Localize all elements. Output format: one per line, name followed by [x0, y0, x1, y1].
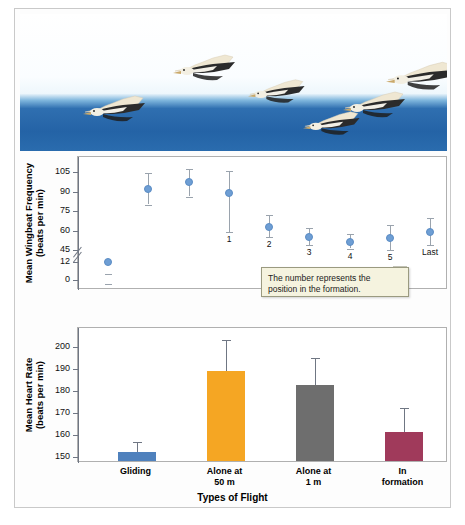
wingbeat-y-axis-title: Mean Wingbeat Frequency (beats per min): [22, 156, 44, 289]
wingbeat-error-cap: [306, 245, 313, 246]
wingbeat-error-cap: [145, 173, 152, 174]
wingbeat-y-axis-line: [78, 157, 79, 290]
heart-rate-category-label-line: formation: [358, 477, 448, 488]
wingbeat-data-point: [346, 238, 354, 246]
heart-rate-y-tick: [73, 457, 78, 458]
heart-rate-y-tick-label: 190: [44, 364, 70, 373]
heart-rate-y-tick-label: 180: [44, 386, 70, 395]
pelican-3: [248, 77, 312, 108]
heart-rate-error-bar: [137, 442, 138, 452]
heart-rate-error-bar: [315, 358, 316, 385]
heart-rate-category-label: Alone at50 m: [180, 466, 270, 487]
wingbeat-y-tick-label: 0: [44, 275, 70, 284]
wingbeat-error-cap: [387, 225, 394, 226]
heart-rate-error-cap: [133, 442, 142, 443]
wingbeat-error-cap: [266, 215, 273, 216]
wingbeat-error-cap: [186, 169, 193, 170]
wingbeat-y-tick-label: 105: [44, 167, 70, 176]
wingbeat-y-tick: [73, 231, 78, 232]
heart-rate-bar: [118, 452, 156, 461]
heart-rate-y-tick-label: 170: [44, 408, 70, 417]
heart-rate-category-label-line: 1 m: [269, 477, 359, 488]
wingbeat-error-cap: [427, 245, 434, 246]
wingbeat-position-label: 3: [294, 247, 324, 257]
heart-rate-bar: [296, 385, 334, 461]
wingbeat-y-tick-label: 60: [44, 226, 70, 235]
heart-rate-y-axis-title-line1: Mean Heart Rate: [22, 327, 33, 462]
wingbeat-data-point: [144, 185, 152, 193]
heart-rate-category-label: Alone at1 m: [269, 466, 359, 487]
heart-rate-bar: [385, 432, 423, 461]
heart-rate-y-tick: [73, 435, 78, 436]
wingbeat-error-cap: [105, 274, 112, 275]
heart-rate-y-tick: [73, 391, 78, 392]
wingbeat-error-bar: [229, 171, 230, 232]
heart-rate-error-cap: [311, 358, 320, 359]
figure-container: 0124560759010512345Last Mean Wingbeat Fr…: [14, 8, 451, 508]
heart-rate-bar: [207, 371, 245, 461]
heart-rate-y-axis-title-line2: (beats per min): [33, 327, 44, 462]
callout-text: The number represents the position in th…: [268, 273, 371, 294]
pelican-1: [83, 93, 153, 127]
heart-rate-chart: 150160170180190200: [77, 327, 447, 462]
heart-rate-y-tick: [73, 369, 78, 370]
wingbeat-y-axis-title-line2: (beats per min): [33, 156, 44, 289]
wingbeat-data-point: [225, 189, 233, 197]
heart-rate-y-tick-label: 160: [44, 430, 70, 439]
wingbeat-y-tick-label: 45: [44, 245, 70, 254]
heart-rate-y-axis-line: [78, 328, 79, 463]
wingbeat-data-point: [386, 234, 394, 242]
wingbeat-y-tick-label: 75: [44, 206, 70, 215]
heart-rate-category-label: Information: [358, 466, 448, 487]
wingbeat-error-cap: [266, 237, 273, 238]
wingbeat-data-point: [104, 258, 112, 266]
wingbeat-error-cap: [145, 205, 152, 206]
heart-rate-category-label-line: 50 m: [180, 477, 270, 488]
wingbeat-error-cap: [186, 197, 193, 198]
heart-rate-category-label-line: Alone at: [180, 466, 270, 477]
formation-position-callout: The number represents the position in th…: [261, 267, 409, 297]
pelican-6: [386, 59, 447, 96]
heart-rate-y-tick: [73, 413, 78, 414]
pelican-2: [173, 52, 243, 86]
wingbeat-error-cap: [347, 234, 354, 235]
wingbeat-data-point: [305, 233, 313, 241]
wingbeat-error-cap: [105, 284, 112, 285]
heart-rate-error-bar: [404, 408, 405, 432]
wingbeat-error-cap: [306, 228, 313, 229]
heart-rate-plot-area: 150160170180190200: [78, 328, 446, 461]
heart-rate-category-label-line: In: [358, 466, 448, 477]
heart-rate-category-label-line: Gliding: [91, 466, 181, 477]
wingbeat-y-tick-label: 12: [44, 257, 70, 266]
heart-rate-error-cap: [222, 340, 231, 341]
wingbeat-error-cap: [226, 171, 233, 172]
heart-rate-y-tick-label: 200: [44, 342, 70, 351]
wingbeat-data-point: [185, 178, 193, 186]
heart-rate-error-bar: [226, 340, 227, 371]
heart-rate-y-tick: [73, 347, 78, 348]
wingbeat-y-tick: [73, 192, 78, 193]
heart-rate-x-axis-title: Types of Flight: [15, 492, 450, 503]
wingbeat-error-cap: [427, 218, 434, 219]
wingbeat-position-label: 2: [254, 239, 284, 249]
wingbeat-y-tick: [73, 211, 78, 212]
wingbeat-y-tick-label: 90: [44, 187, 70, 196]
heart-rate-y-axis-title: Mean Heart Rate (beats per min): [22, 327, 44, 462]
heart-rate-y-tick-label: 150: [44, 452, 70, 461]
wingbeat-y-tick: [73, 172, 78, 173]
heart-rate-category-label: Gliding: [91, 466, 181, 477]
wingbeat-y-axis-title-line1: Mean Wingbeat Frequency: [22, 156, 33, 289]
pelican-photo: [20, 14, 447, 151]
wingbeat-error-cap: [226, 232, 233, 233]
wingbeat-position-label: 1: [214, 234, 244, 244]
wingbeat-data-point: [265, 223, 273, 231]
wingbeat-data-point: [426, 228, 434, 236]
heart-rate-error-cap: [400, 408, 409, 409]
heart-rate-category-label-line: Alone at: [269, 466, 359, 477]
wingbeat-y-tick: [73, 280, 78, 281]
